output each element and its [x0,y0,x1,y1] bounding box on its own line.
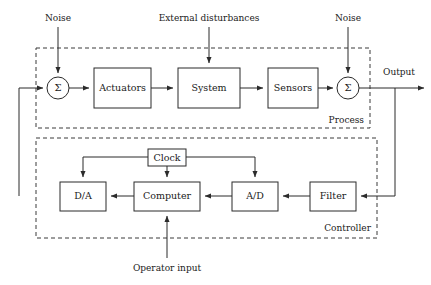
ad-label: A/D [245,190,264,201]
sigma-icon: Σ [54,82,61,93]
block-computer[interactable]: Computer [134,182,200,211]
wire-da-to-sum-left [19,88,43,196]
operator-input-label: Operator input [133,263,202,273]
block-diagram-canvas: Process Controller [0,0,431,285]
wire-clock-to-da [83,157,148,177]
wire-clock-to-ad [186,157,255,177]
system-label: System [191,82,226,93]
clock-label: Clock [153,152,180,163]
block-ad[interactable]: A/D [232,182,278,211]
block-diagram-svg: Process Controller [0,0,431,285]
da-label: D/A [74,190,92,201]
block-actuators[interactable]: Actuators [94,68,151,108]
summing-junction-left[interactable]: Σ [47,77,69,99]
noise-left-label: Noise [45,13,71,23]
sigma-icon: Σ [344,82,351,93]
block-filter[interactable]: Filter [310,182,356,211]
output-label: Output [383,67,415,77]
block-clock[interactable]: Clock [148,149,186,166]
process-label: Process [329,115,365,125]
summing-junction-right[interactable]: Σ [337,77,359,99]
sensors-label: Sensors [274,82,312,93]
computer-label: Computer [143,190,192,201]
block-sensors[interactable]: Sensors [268,68,318,108]
actuators-label: Actuators [98,82,146,93]
noise-right-label: Noise [335,13,361,23]
controller-label: Controller [324,223,372,233]
wire-output-to-filter [361,88,395,196]
block-da[interactable]: D/A [60,182,106,211]
block-system[interactable]: System [178,68,240,108]
external-disturbances-label: External disturbances [159,13,260,23]
filter-label: Filter [320,190,347,201]
